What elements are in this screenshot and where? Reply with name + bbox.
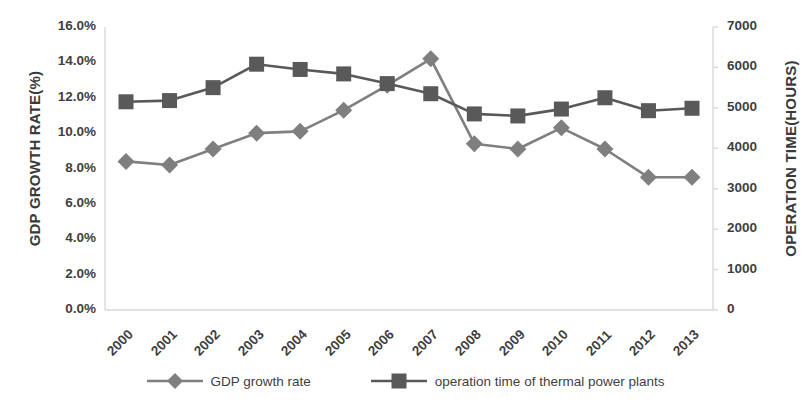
x-tick-label: 2013 <box>670 327 702 359</box>
data-point-marker <box>685 101 700 116</box>
legend-label: operation time of thermal power plants <box>435 374 665 389</box>
x-tick-label: 2003 <box>235 327 267 359</box>
right-tick-label: 1000 <box>727 261 785 276</box>
right-tick-label: 2000 <box>727 220 785 235</box>
legend-item[interactable]: GDP growth rate <box>145 372 311 390</box>
left-tick-label: 0.0% <box>38 301 96 316</box>
left-tick-label: 14.0% <box>38 53 96 68</box>
diamond-marker-icon <box>145 372 205 390</box>
x-tick-label: 2008 <box>452 327 484 359</box>
data-point-marker <box>554 102 569 117</box>
right-tick-label: 4000 <box>727 139 785 154</box>
data-point-marker <box>553 119 570 136</box>
data-point-marker <box>466 135 483 152</box>
x-tick-label: 2010 <box>539 327 571 359</box>
x-tick-label: 2011 <box>583 327 614 358</box>
axis-frame <box>105 27 713 310</box>
data-point-marker <box>684 169 701 186</box>
data-point-marker <box>641 103 656 118</box>
x-tick-label: 2007 <box>409 327 441 359</box>
series-diamond <box>118 50 701 186</box>
right-tick-label: 0 <box>727 301 785 316</box>
data-point-marker <box>597 90 612 105</box>
data-point-marker <box>206 80 221 95</box>
data-point-marker <box>162 93 177 108</box>
left-tick-label: 8.0% <box>38 160 96 175</box>
right-tick-label: 3000 <box>727 180 785 195</box>
data-point-marker <box>118 153 135 170</box>
data-point-marker <box>293 62 308 77</box>
right-tick-label: 6000 <box>727 58 785 73</box>
right-tick-label: 7000 <box>727 18 785 33</box>
series-line <box>126 64 692 116</box>
x-tick-label: 2006 <box>365 327 397 359</box>
x-tick-label: 2000 <box>104 327 136 359</box>
left-tick-label: 10.0% <box>38 124 96 139</box>
data-point-marker <box>336 66 351 81</box>
square-marker-icon <box>369 372 429 390</box>
left-tick-label: 4.0% <box>38 230 96 245</box>
x-tick-label: 2004 <box>278 327 310 359</box>
data-point-marker <box>249 57 264 72</box>
data-point-marker <box>161 156 178 173</box>
data-point-marker <box>510 108 525 123</box>
legend-label: GDP growth rate <box>211 374 311 389</box>
left-tick-label: 16.0% <box>38 18 96 33</box>
data-point-marker <box>292 123 309 140</box>
series-square <box>119 57 700 124</box>
left-tick-label: 12.0% <box>38 89 96 104</box>
x-tick-label: 2009 <box>496 327 528 359</box>
left-tick-label: 2.0% <box>38 266 96 281</box>
x-tick-label: 2002 <box>191 327 223 359</box>
data-point-marker <box>248 125 265 142</box>
data-point-marker <box>379 77 396 94</box>
data-point-marker <box>640 169 657 186</box>
data-point-marker <box>205 141 222 158</box>
data-point-marker <box>596 141 613 158</box>
data-point-marker <box>467 106 482 121</box>
x-tick-label: 2005 <box>322 327 354 359</box>
x-tick-label: 2012 <box>626 327 658 359</box>
data-point-marker <box>509 141 526 158</box>
chart-container: GDP GROWTH RATE(%) OPERATION TIME(HOURS)… <box>0 0 809 410</box>
right-axis-title: OPERATION TIME(HOURS) <box>782 39 799 279</box>
series-line <box>126 59 692 178</box>
data-point-marker <box>423 86 438 101</box>
data-point-marker <box>335 102 352 119</box>
data-point-marker <box>380 76 395 91</box>
right-tick-label: 5000 <box>727 99 785 114</box>
chart-legend: GDP growth rateoperation time of thermal… <box>0 372 809 390</box>
left-tick-label: 6.0% <box>38 195 96 210</box>
data-point-marker <box>119 94 134 109</box>
legend-item[interactable]: operation time of thermal power plants <box>369 372 665 390</box>
data-point-marker <box>422 50 439 67</box>
x-tick-label: 2001 <box>148 327 180 359</box>
